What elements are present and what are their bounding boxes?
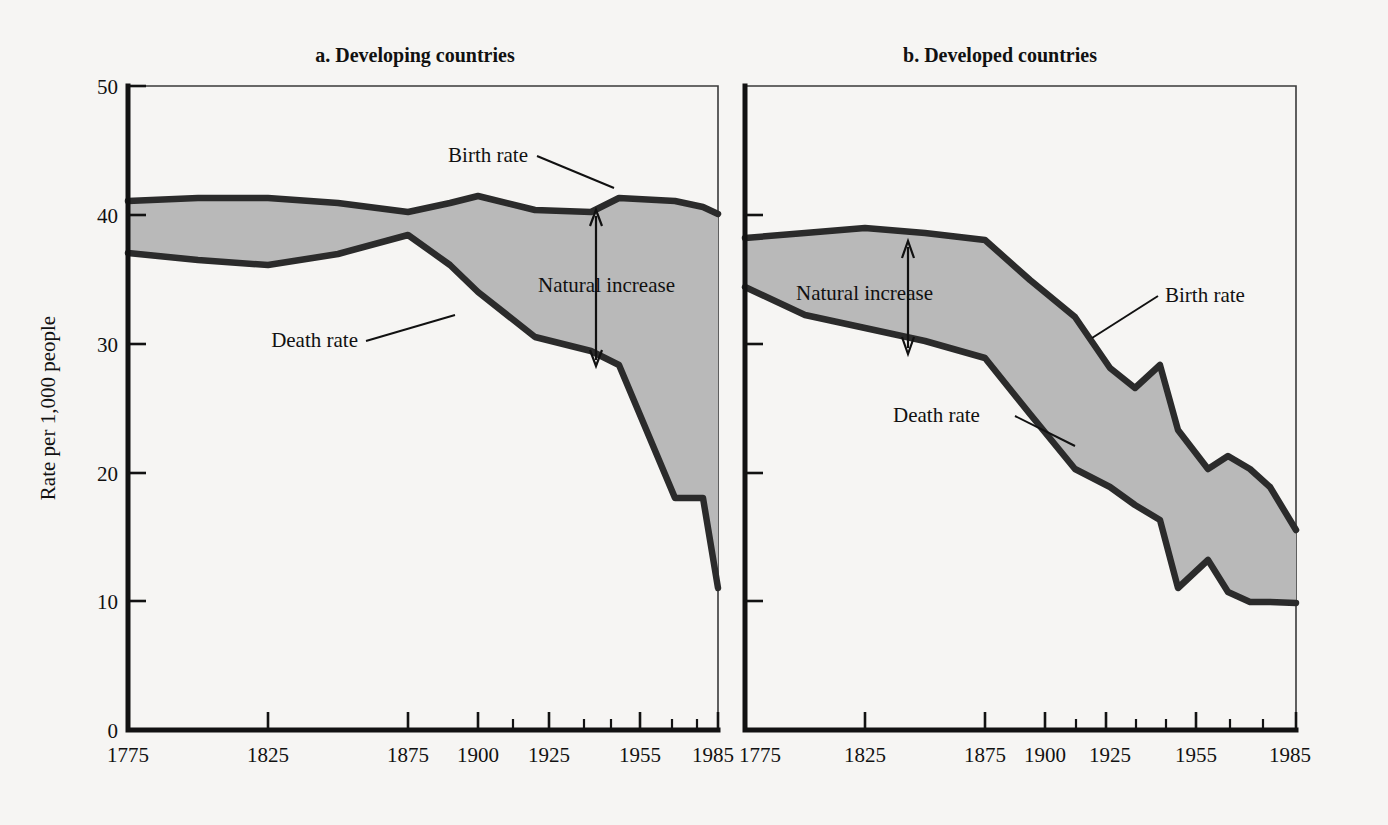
panel-a-death-rate-leader (366, 315, 455, 341)
x-tick-1955: 1955 (619, 743, 661, 767)
panel-b-death-rate-label: Death rate (893, 403, 980, 427)
panel-b-birth-rate-annotation: Birth rate (1092, 283, 1245, 338)
y-tick-10: 10 (97, 590, 118, 614)
panel-a-frame (128, 86, 718, 730)
x-tick-b-1985: 1985 (1269, 743, 1311, 767)
panel-a-y-tick-labels: 50 40 30 20 10 0 (97, 75, 118, 743)
x-tick-b-1900: 1900 (1024, 743, 1066, 767)
panel-a-natural-increase-label: Natural increase (538, 273, 675, 297)
panel-a-death-rate-annotation: Death rate (271, 315, 455, 352)
x-tick-b-1775: 1775 (739, 743, 781, 767)
y-tick-0: 0 (108, 719, 119, 743)
panel-b-natural-increase-label: Natural increase (796, 281, 933, 305)
x-tick-b-1955: 1955 (1175, 743, 1217, 767)
panel-b-frame (745, 86, 1296, 730)
panel-a-birth-rate-leader (537, 156, 614, 188)
panel-a-death-rate-label: Death rate (271, 328, 358, 352)
panel-b-title: b. Developed countries (903, 44, 1097, 67)
panel-a-x-tick-labels: 1775 1825 1875 1900 1925 1955 1985 (107, 743, 734, 767)
panel-a-birth-rate-annotation: Birth rate (448, 143, 614, 188)
panel-b-x-ticks (745, 712, 1296, 730)
panel-a-title: a. Developing countries (315, 44, 515, 67)
x-tick-1900: 1900 (457, 743, 499, 767)
x-tick-1775: 1775 (107, 743, 149, 767)
chart-canvas: a. Developing countries 50 (0, 0, 1388, 825)
panel-b-x-tick-labels: 1775 1825 1875 1900 1925 1955 1985 (739, 743, 1311, 767)
y-tick-30: 30 (97, 333, 118, 357)
x-tick-b-1925: 1925 (1089, 743, 1131, 767)
panel-a-birth-rate-label: Birth rate (448, 143, 528, 167)
panel-b-axes (745, 86, 1296, 730)
x-tick-1925: 1925 (528, 743, 570, 767)
panel-b-birth-rate-label: Birth rate (1165, 283, 1245, 307)
panel-a-y-ticks (128, 86, 146, 601)
x-tick-1875: 1875 (387, 743, 429, 767)
panel-b-birth-rate-leader (1092, 296, 1158, 338)
y-tick-40: 40 (97, 204, 118, 228)
panel-a: a. Developing countries 50 (36, 44, 734, 767)
demographic-transition-figure: a. Developing countries 50 (0, 0, 1388, 825)
y-axis-title: Rate per 1,000 people (36, 316, 60, 500)
panel-a-axes (128, 86, 718, 730)
x-tick-1825: 1825 (247, 743, 289, 767)
y-tick-20: 20 (97, 462, 118, 486)
y-tick-50: 50 (97, 75, 118, 99)
panel-b: b. Developed countries (739, 44, 1311, 767)
panel-a-x-ticks (128, 712, 718, 730)
x-tick-b-1825: 1825 (844, 743, 886, 767)
x-tick-b-1875: 1875 (964, 743, 1006, 767)
x-tick-1985: 1985 (692, 743, 734, 767)
